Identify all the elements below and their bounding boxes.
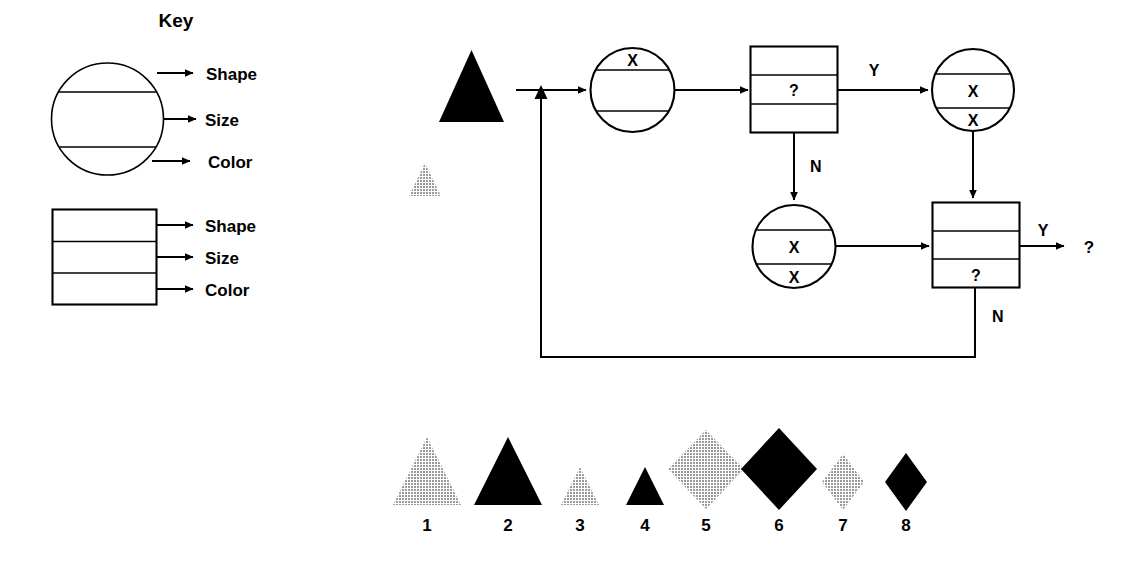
node-box-1: ? <box>751 47 838 133</box>
rectangle-key-glyph <box>53 210 157 305</box>
gallery-item-1: 1 <box>393 437 461 535</box>
gallery-label-2: 2 <box>503 516 512 535</box>
gallery-shape-1-triangle-grey-large <box>393 437 461 505</box>
gallery-item-2: 2 <box>474 437 542 535</box>
branch-label-box1-no: N <box>810 158 822 175</box>
gallery-label-7: 7 <box>838 516 847 535</box>
key-circle-label-shape: Shape <box>206 65 257 84</box>
gallery-item-4: 4 <box>626 467 664 535</box>
node-circle-2: X X <box>930 49 1016 131</box>
gallery-label-8: 8 <box>901 516 910 535</box>
circle-key-glyph <box>50 63 165 175</box>
gallery-shape-6-diamond-black-large <box>741 428 817 510</box>
node-box-1-cell-size: ? <box>789 82 799 99</box>
node-circle-2-cell-color: X <box>968 112 979 129</box>
gallery-item-6: 6 <box>741 428 817 535</box>
branch-label-box2-yes: Y <box>1038 222 1049 239</box>
gallery-label-3: 3 <box>575 516 584 535</box>
key-rect-label-color: Color <box>205 281 250 300</box>
gallery-shape-2-triangle-black-large <box>474 437 542 505</box>
output-question-label: ? <box>1084 238 1094 257</box>
input-triangle-black-large <box>439 50 504 122</box>
diagram-canvas: Key Shape Size Color <box>0 0 1140 568</box>
gallery-label-5: 5 <box>701 516 710 535</box>
node-circle-3-cell-color: X <box>789 269 800 286</box>
key-circle-label-size: Size <box>205 111 239 130</box>
branch-label-box1-yes: Y <box>869 62 880 79</box>
branch-label-box2-no: N <box>992 308 1004 325</box>
gallery-item-3: 3 <box>561 467 599 535</box>
gallery-label-6: 6 <box>774 516 783 535</box>
gallery-shape-7-diamond-grey-small <box>822 454 864 510</box>
gallery-item-8: 8 <box>885 453 927 535</box>
node-circle-1-cell-shape: X <box>627 52 638 69</box>
key-rect-label-shape: Shape <box>205 217 256 236</box>
node-box-2: ? <box>933 203 1020 288</box>
gallery-shape-5-diamond-grey-large <box>668 430 744 509</box>
gallery-label-1: 1 <box>422 516 431 535</box>
gallery-shape-8-diamond-black-small <box>885 453 927 511</box>
node-circle-3-cell-size: X <box>789 239 800 256</box>
gallery-shape-3-triangle-grey-small <box>561 467 599 505</box>
node-circle-1: X <box>589 48 676 132</box>
gallery-item-7: 7 <box>822 454 864 535</box>
key-rect-label-size: Size <box>205 249 239 268</box>
node-circle-3: X X <box>750 205 838 288</box>
node-box-2-cell-color: ? <box>971 267 981 284</box>
key-circle-label-color: Color <box>208 153 253 172</box>
triangle-grey-small <box>409 163 441 196</box>
gallery-item-5: 5 <box>668 430 744 535</box>
gallery-label-4: 4 <box>640 516 650 535</box>
shape-classification-diagram: Key Shape Size Color <box>0 0 1140 568</box>
key-title: Key <box>159 10 194 31</box>
node-circle-2-cell-size: X <box>968 83 979 100</box>
gallery-shape-4-triangle-black-small <box>626 467 664 505</box>
